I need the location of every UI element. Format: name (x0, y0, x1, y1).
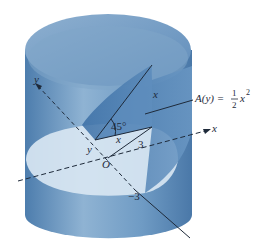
radius-label: 3 (138, 138, 144, 150)
leg-height-label: x (152, 88, 158, 100)
point-y-label: y (86, 143, 92, 155)
x-axis-arrow-icon (203, 129, 211, 134)
x-axis-label: x (211, 122, 217, 134)
area-variable: x (239, 92, 245, 104)
cylinder-wedge-diagram: y x O y 45° x x 3 −3 A(y) = 1 2 x 2 (0, 0, 263, 248)
area-formula-lhs: A(y) = (194, 92, 224, 105)
neg-radius-label: −3 (128, 190, 140, 202)
area-exponent: 2 (246, 88, 250, 97)
leg-base-label: x (115, 133, 121, 145)
origin-label: O (102, 158, 110, 170)
angle-label: 45° (111, 120, 126, 132)
area-fraction-denominator: 2 (232, 100, 237, 110)
y-axis-label: y (33, 73, 39, 85)
area-fraction-numerator: 1 (232, 88, 237, 98)
